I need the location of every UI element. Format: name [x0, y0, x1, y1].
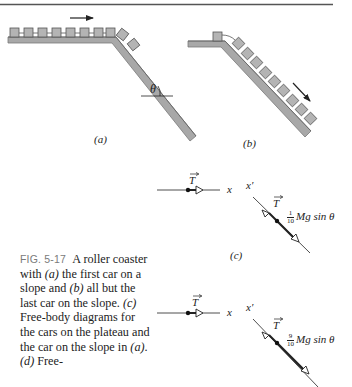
panel-c-slope-tension-label: T: [273, 197, 279, 209]
tension-symbol: T: [273, 319, 279, 331]
panel-d-slope-axis-label: x′: [246, 301, 253, 313]
gravity-expression: Mg sin θ: [296, 333, 334, 345]
tension-symbol: T: [189, 174, 195, 186]
axis-symbol: x: [227, 306, 232, 318]
panel-b-cable: [222, 35, 235, 40]
fraction: 910: [287, 333, 294, 348]
panel-a-label: (a): [94, 133, 107, 145]
panel-c-slope-axis-label: x′: [246, 179, 253, 191]
panel-d-slope-fbd: [253, 318, 318, 387]
tension-symbol: T: [192, 296, 198, 308]
panel-a-track: [8, 37, 196, 141]
gravity-expression: Mg sin θ: [296, 210, 334, 222]
panel-d-plateau-axis-label: x: [227, 306, 232, 318]
panel-a-angle-label: θ: [150, 82, 156, 97]
panel-d-plateau-tension-label: T: [192, 296, 198, 308]
panel-d-gravity-label: 910Mg sin θ: [287, 333, 334, 348]
axis-symbol: x′: [246, 179, 253, 191]
axis-symbol: x: [227, 183, 232, 195]
fraction: 110: [287, 210, 294, 225]
panel-c-label: (c): [230, 249, 242, 261]
panel-c-plateau-axis-label: x: [227, 183, 232, 195]
figure-number: FIG. 5-17: [20, 253, 66, 265]
panel-c-gravity-label: 110Mg sin θ: [287, 210, 334, 225]
panel-d-slope-tension-label: T: [273, 319, 279, 331]
figure-caption: FIG. 5-17 A roller coaster with (a) the …: [20, 252, 152, 369]
panel-c-plateau-tension-label: T: [189, 174, 195, 186]
panel-b-label: (b): [243, 137, 256, 149]
axis-symbol: x′: [246, 301, 253, 313]
tension-symbol: T: [273, 197, 279, 209]
panel-d-plateau-fbd: [157, 295, 220, 318]
